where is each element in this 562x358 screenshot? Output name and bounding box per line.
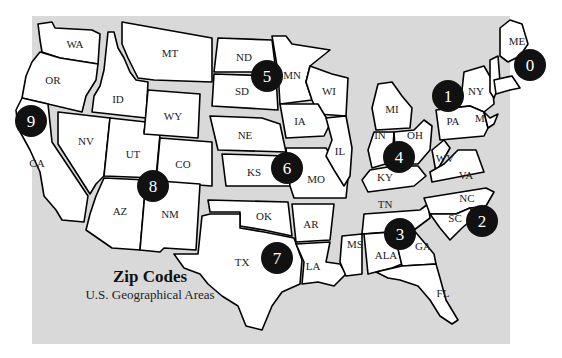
label-mo: MO [307, 173, 325, 185]
label-ia: IA [294, 115, 306, 127]
svg-text:6: 6 [283, 159, 292, 178]
label-or: OR [45, 74, 61, 86]
label-tx: TX [235, 256, 250, 268]
label-co: CO [175, 158, 190, 170]
label-wv: WV [436, 152, 454, 164]
badge-zone-1[interactable]: 1 [432, 80, 464, 112]
label-ca: CA [29, 157, 44, 169]
svg-text:1: 1 [444, 87, 453, 106]
label-ga: GA [415, 240, 431, 252]
badge-zone-7[interactable]: 7 [261, 242, 293, 274]
map-title-block: Zip Codes U.S. Geographical Areas [80, 267, 220, 303]
map-title: Zip Codes [80, 267, 220, 287]
label-nd: ND [236, 51, 252, 63]
label-mt: MT [162, 47, 179, 59]
label-fl: FL [437, 287, 450, 299]
label-id: ID [112, 93, 124, 105]
badge-zone-5[interactable]: 5 [251, 60, 283, 92]
svg-text:9: 9 [27, 112, 36, 131]
label-il: IL [335, 145, 346, 157]
label-wi: WI [322, 85, 336, 97]
badge-zone-0[interactable]: 0 [514, 49, 546, 81]
badge-zone-6[interactable]: 6 [271, 152, 303, 184]
badge-zone-2[interactable]: 2 [466, 205, 498, 237]
label-va: VA [459, 169, 474, 181]
label-sd: SD [235, 85, 249, 97]
state-ma[interactable] [494, 76, 520, 94]
label-ks: KS [247, 166, 261, 178]
label-ny: NY [468, 85, 484, 97]
label-ky: KY [377, 171, 393, 183]
badge-zone-8[interactable]: 8 [137, 170, 169, 202]
svg-text:8: 8 [149, 177, 158, 196]
label-ok: OK [256, 210, 272, 222]
label-ut: UT [126, 148, 141, 160]
label-ar: AR [303, 218, 319, 230]
label-nc: NC [459, 192, 474, 204]
label-md: M [475, 112, 485, 124]
label-ala: ALA [375, 249, 398, 261]
label-wy: WY [164, 110, 182, 122]
label-az: AZ [113, 205, 128, 217]
svg-text:0: 0 [526, 56, 535, 75]
badge-zone-3[interactable]: 3 [384, 218, 416, 250]
label-mn: MN [283, 69, 301, 81]
svg-text:7: 7 [273, 249, 282, 268]
svg-text:3: 3 [396, 225, 405, 244]
label-in: IN [374, 129, 386, 141]
label-ne: NE [238, 129, 253, 141]
zip-code-map: WA OR CA ID NV UT AZ MT WY CO NM ND SD M… [0, 0, 562, 358]
label-ms: MS [347, 238, 363, 250]
label-nv: NV [78, 135, 94, 147]
badge-zone-9[interactable]: 9 [15, 105, 47, 137]
map-subtitle: U.S. Geographical Areas [80, 287, 220, 303]
label-tn: TN [378, 198, 393, 210]
label-pa: PA [446, 115, 459, 127]
label-sc: SC [448, 212, 461, 224]
label-wa: WA [66, 38, 83, 50]
label-oh: OH [407, 129, 423, 141]
svg-text:2: 2 [478, 212, 487, 231]
svg-text:4: 4 [395, 148, 404, 167]
label-mi: MI [385, 103, 399, 115]
label-nm: NM [161, 208, 179, 220]
badge-zone-4[interactable]: 4 [383, 141, 415, 173]
label-la: LA [306, 260, 321, 272]
svg-text:5: 5 [263, 67, 272, 86]
label-me: ME [509, 35, 526, 47]
